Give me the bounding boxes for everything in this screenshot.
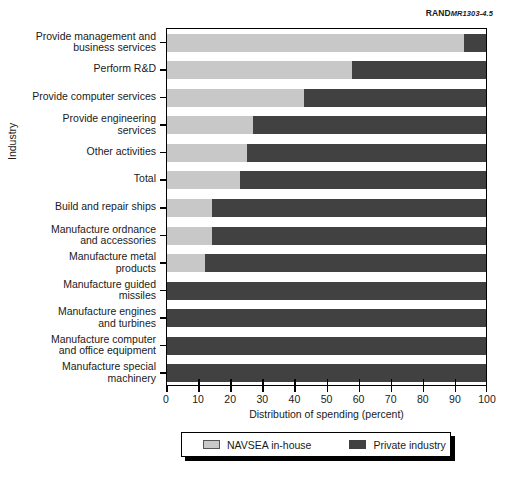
y-axis-tick-label: Manufacture specialmachinery xyxy=(28,361,156,384)
bar-row xyxy=(167,144,486,162)
legend-label: NAVSEA in-house xyxy=(227,439,311,451)
bar-segment-inhouse xyxy=(167,34,464,52)
x-axis-tick-label: 100 xyxy=(478,393,496,405)
bar-segment-inhouse xyxy=(167,254,205,272)
y-axis-tick-label: Manufacture enginesand turbines xyxy=(28,306,156,329)
legend-swatch-private xyxy=(349,440,366,449)
publisher-label: RAND xyxy=(426,8,451,18)
x-axis-title: Distribution of spending (percent) xyxy=(166,408,487,420)
y-axis-tick-label: Provide computer services xyxy=(28,91,156,103)
bar-segment-private xyxy=(167,364,486,382)
x-axis-tick xyxy=(230,386,232,392)
bar-row xyxy=(167,227,486,245)
x-axis-tick xyxy=(486,386,488,392)
bar-segment-inhouse xyxy=(167,61,352,79)
legend-label: Private industry xyxy=(373,439,445,451)
y-axis-tick-label: Build and repair ships xyxy=(28,201,156,213)
x-axis-tick xyxy=(294,386,296,392)
y-axis-title: Industry xyxy=(6,123,18,160)
bar-row xyxy=(167,171,486,189)
x-axis-tick-label: 0 xyxy=(163,393,169,405)
legend-item-inhouse: NAVSEA in-house xyxy=(203,439,311,451)
bar-row xyxy=(167,89,486,107)
bar-segment-private xyxy=(253,116,486,134)
bar-row xyxy=(167,309,486,327)
y-axis-tick-labels: Provide management andbusiness servicesP… xyxy=(28,28,156,386)
x-axis-tick xyxy=(359,386,361,392)
bar-series-container xyxy=(167,29,486,385)
y-axis-tick-label: Manufacture computerand office equipment xyxy=(28,333,156,356)
bar-segment-private xyxy=(464,34,486,52)
plot-area xyxy=(166,28,487,386)
x-axis-tick xyxy=(262,386,264,392)
bar-row xyxy=(167,199,486,217)
bar-segment-private xyxy=(247,144,486,162)
y-axis-tick-label: Manufacture ordnanceand accessories xyxy=(28,223,156,246)
bar-row xyxy=(167,282,486,300)
x-axis-tick xyxy=(391,386,393,392)
x-axis-tick xyxy=(166,386,168,392)
y-axis-tick-label: Manufacture guidedmissiles xyxy=(28,278,156,301)
bar-segment-inhouse xyxy=(167,199,212,217)
x-axis-tick-label: 50 xyxy=(321,393,333,405)
bar-segment-private xyxy=(167,282,486,300)
bar-segment-inhouse xyxy=(167,116,253,134)
bar-segment-private xyxy=(304,89,486,107)
x-axis-tick-label: 90 xyxy=(449,393,461,405)
x-axis-tick-label: 80 xyxy=(417,393,429,405)
bar-segment-inhouse xyxy=(167,89,304,107)
y-axis-tick-label: Perform R&D xyxy=(28,64,156,76)
legend-item-private: Private industry xyxy=(349,439,445,451)
bar-row xyxy=(167,337,486,355)
x-axis-tick-label: 40 xyxy=(289,393,301,405)
x-axis-ticks xyxy=(166,386,487,392)
legend-swatch-inhouse xyxy=(203,440,220,449)
x-axis-tick-label: 30 xyxy=(256,393,268,405)
bar-row xyxy=(167,34,486,52)
bar-segment-inhouse xyxy=(167,171,240,189)
bar-segment-inhouse xyxy=(167,144,247,162)
x-axis-tick-label: 60 xyxy=(353,393,365,405)
y-axis-tick-label: Provide engineeringservices xyxy=(28,113,156,136)
x-axis-tick-label: 20 xyxy=(224,393,236,405)
source-credit: RANDMR1303-4.5 xyxy=(426,8,493,18)
bar-segment-private xyxy=(167,337,486,355)
x-axis-tick xyxy=(423,386,425,392)
bar-segment-private xyxy=(240,171,486,189)
bar-row xyxy=(167,364,486,382)
bar-segment-private xyxy=(205,254,486,272)
y-axis-tick-label: Provide management andbusiness services xyxy=(28,30,156,53)
x-axis-tick xyxy=(198,386,200,392)
y-axis-tick-label: Total xyxy=(28,174,156,186)
y-axis-tick-label: Manufacture metal products xyxy=(28,251,156,274)
x-axis-tick-label: 70 xyxy=(385,393,397,405)
bar-segment-inhouse xyxy=(167,227,212,245)
bar-segment-private xyxy=(212,227,486,245)
bar-row xyxy=(167,61,486,79)
y-axis-tick-label: Other activities xyxy=(28,146,156,158)
document-id-label: MR1303-4.5 xyxy=(451,9,493,18)
bar-segment-private xyxy=(352,61,486,79)
bar-segment-private xyxy=(212,199,486,217)
x-axis-tick-labels: 0102030405060708090100 xyxy=(166,393,487,407)
chart-figure: RANDMR1303-4.5 Industry Provide manageme… xyxy=(0,0,507,480)
x-axis-tick-label: 10 xyxy=(192,393,204,405)
bar-row xyxy=(167,254,486,272)
chart-legend: NAVSEA in-housePrivate industry xyxy=(181,432,451,457)
x-axis-tick xyxy=(327,386,329,392)
bar-segment-private xyxy=(167,309,486,327)
x-axis-tick xyxy=(455,386,457,392)
bar-row xyxy=(167,116,486,134)
